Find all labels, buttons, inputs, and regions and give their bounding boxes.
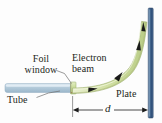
label-foil-window-line1: Foil (14, 54, 68, 65)
label-foil-window: Foil window (14, 54, 68, 75)
label-foil-window-line2: window (14, 65, 68, 76)
physics-figure-electron-beam: Foil window Tube Electron beam Plate d (0, 0, 162, 123)
label-electron-beam: Electron beam (72, 53, 119, 74)
label-electron-beam-line1: Electron (72, 53, 119, 64)
tube-shape (5, 84, 73, 93)
label-plate: Plate (116, 89, 137, 100)
label-distance-d: d (105, 103, 111, 114)
label-electron-beam-line2: beam (72, 64, 119, 75)
label-tube: Tube (7, 95, 28, 106)
plate-shape (148, 8, 153, 118)
